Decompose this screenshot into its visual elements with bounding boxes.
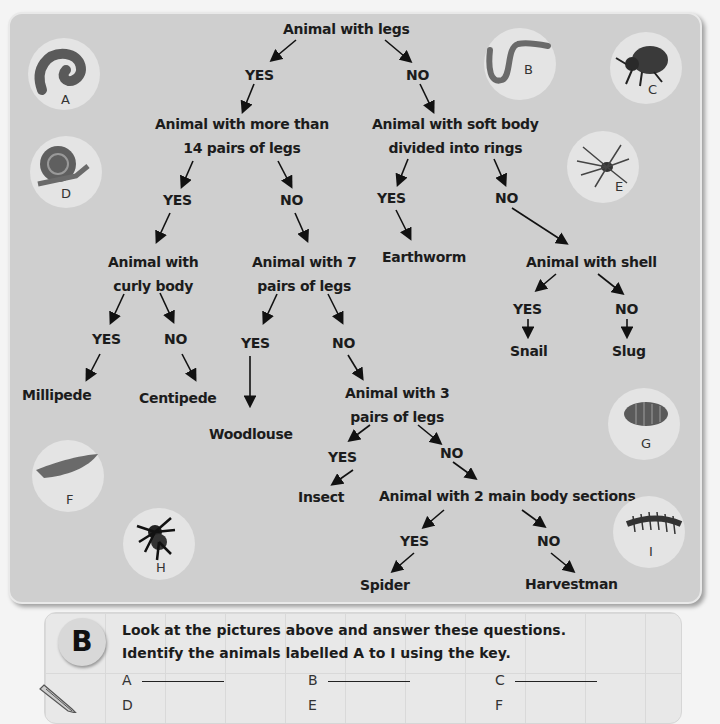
yes-label: YES	[163, 188, 192, 212]
picture-d: D	[30, 136, 102, 208]
yes-label: YES	[400, 529, 429, 553]
picture-label: H	[156, 560, 166, 575]
node-line: Animal with 7	[252, 250, 356, 274]
answer-f[interactable]: F	[495, 697, 503, 713]
leaf-centipede: Centipede	[139, 386, 217, 410]
picture-label: I	[649, 544, 653, 559]
picture-i: I	[613, 496, 685, 568]
yes-label: YES	[513, 297, 542, 321]
node-line: Animal with 3	[345, 381, 449, 405]
yes-label: YES	[245, 63, 274, 87]
no-label: NO	[615, 297, 638, 321]
node-seven-pairs: Animal with 7 pairs of legs	[252, 250, 356, 298]
answer-e[interactable]: E	[308, 697, 317, 713]
leaf-millipede: Millipede	[22, 383, 91, 407]
answer-blank[interactable]	[515, 681, 597, 682]
leaf-slug: Slug	[612, 339, 646, 363]
leaf-insect: Insect	[298, 485, 344, 509]
leaf-earthworm: Earthworm	[382, 245, 466, 269]
node-line: 14 pairs of legs	[155, 136, 329, 160]
no-label: NO	[280, 188, 303, 212]
picture-label: F	[66, 492, 73, 507]
node-line: Animal with	[108, 250, 198, 274]
harvestman-icon	[567, 131, 639, 203]
no-label: NO	[406, 63, 429, 87]
picture-h: H	[123, 508, 195, 580]
picture-label: E	[615, 179, 623, 194]
root-node: Animal with legs	[283, 17, 409, 41]
node-line: divided into rings	[372, 136, 539, 160]
answer-label: F	[495, 697, 503, 713]
picture-b: B	[484, 28, 556, 100]
node-line: curly body	[108, 274, 198, 298]
leaf-harvestman: Harvestman	[525, 572, 618, 596]
no-label: NO	[332, 331, 355, 355]
answer-label: B	[308, 672, 318, 688]
node-line: Animal with soft body	[372, 112, 539, 136]
node-shell: Animal with shell	[526, 250, 657, 274]
node-three-pairs: Animal with 3 pairs of legs	[345, 381, 449, 429]
answer-label: C	[495, 672, 505, 688]
beetle-icon	[610, 32, 682, 104]
node-soft-body: Animal with soft body divided into rings	[372, 112, 539, 160]
no-label: NO	[537, 529, 560, 553]
picture-c: C	[610, 32, 682, 104]
picture-a: A	[28, 38, 100, 110]
answer-c[interactable]: C	[495, 672, 597, 688]
node-line: pairs of legs	[252, 274, 356, 298]
yes-label: YES	[92, 327, 121, 351]
node-curly-body: Animal with curly body	[108, 250, 198, 298]
question-line-1: Look at the pictures above and answer th…	[122, 622, 566, 638]
no-label: NO	[440, 441, 463, 465]
picture-label: D	[61, 186, 71, 201]
picture-e: E	[567, 131, 639, 203]
node-more-than-14-pairs: Animal with more than 14 pairs of legs	[155, 112, 329, 160]
picture-g: G	[608, 388, 680, 460]
leaf-spider: Spider	[360, 573, 410, 597]
answer-d[interactable]: D	[122, 697, 133, 713]
node-line: pairs of legs	[345, 405, 449, 429]
answer-blank[interactable]	[328, 681, 410, 682]
picture-label: G	[641, 436, 651, 451]
worm-icon	[484, 28, 556, 100]
yes-label: YES	[377, 186, 406, 210]
no-label: NO	[164, 327, 187, 351]
answer-label: D	[122, 697, 133, 713]
answer-a[interactable]: A	[122, 672, 224, 688]
answer-label: A	[122, 672, 132, 688]
answer-label: E	[308, 697, 317, 713]
picture-label: C	[648, 82, 657, 97]
node-line: Animal with more than	[155, 112, 329, 136]
picture-label: B	[524, 62, 533, 77]
question-line-2: Identify the animals labelled A to I usi…	[122, 645, 511, 661]
answer-b[interactable]: B	[308, 672, 410, 688]
yes-label: YES	[328, 445, 357, 469]
answer-blank[interactable]	[142, 681, 224, 682]
pencil-icon	[38, 683, 78, 713]
yes-label: YES	[241, 331, 270, 355]
leaf-woodlouse: Woodlouse	[209, 422, 293, 446]
leaf-snail: Snail	[510, 339, 548, 363]
picture-f: F	[32, 440, 104, 512]
node-two-sections: Animal with 2 main body sections	[379, 484, 635, 508]
no-label: NO	[495, 186, 518, 210]
section-badge: B	[58, 618, 106, 666]
picture-label: A	[61, 92, 70, 107]
